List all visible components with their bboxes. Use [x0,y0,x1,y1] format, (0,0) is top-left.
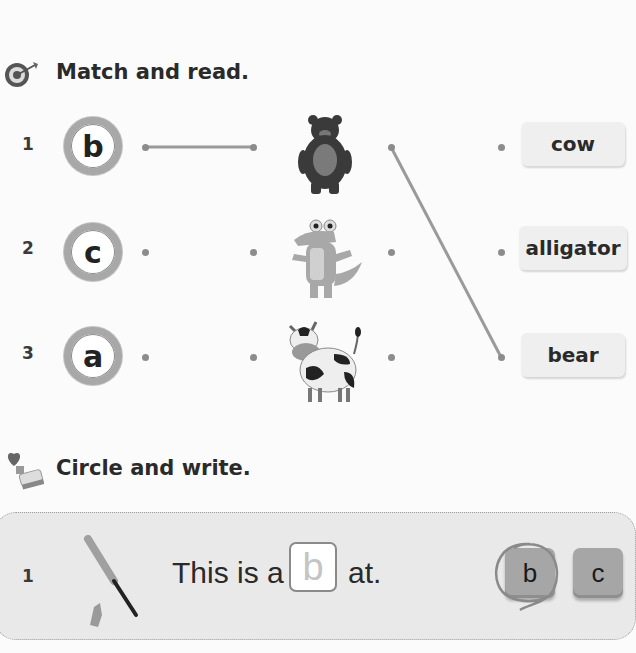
choice-c[interactable]: c [573,548,623,598]
match-dot[interactable] [250,144,257,151]
circled-answer-mark [490,538,570,616]
letter-circle-c[interactable]: c [64,223,122,281]
match-dot[interactable] [250,354,257,361]
match-dot[interactable] [498,144,505,151]
match-dot[interactable] [388,354,395,361]
alligator-picture [288,218,364,302]
match-dot[interactable] [142,144,149,151]
word-card-alligator[interactable]: alligator [519,226,627,270]
item-number: 1 [22,566,34,586]
letter-circle-b[interactable]: b [64,117,122,175]
letter-circle-a[interactable]: a [64,327,122,385]
sentence-start: This is a [172,556,284,590]
cow-picture [284,318,364,402]
match-dot[interactable] [388,144,395,151]
row-number: 3 [22,343,34,363]
match-dot[interactable] [250,249,257,256]
answer-input-box[interactable]: b [289,542,337,592]
stamp-heart-icon [2,448,44,490]
bear-picture [295,112,355,194]
match-dot[interactable] [498,249,505,256]
match-dot[interactable] [388,249,395,256]
word-card-bear[interactable]: bear [521,333,625,377]
section-title-circle-write: Circle and write. [56,456,251,480]
word-card-cow[interactable]: cow [521,122,625,166]
baseball-bat-picture [80,535,144,631]
sentence-end: at. [348,556,381,590]
match-dot[interactable] [498,354,505,361]
match-dot[interactable] [142,354,149,361]
row-number: 1 [22,134,34,154]
match-dot[interactable] [142,249,149,256]
row-number: 2 [22,238,34,258]
